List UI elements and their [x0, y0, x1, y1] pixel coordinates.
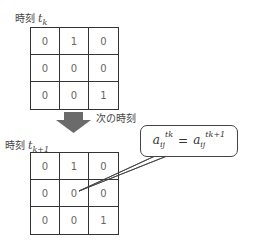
- rhs-term: aijtk+1: [193, 132, 225, 149]
- callout-tail-lines: [0, 0, 254, 247]
- equals-sign: =: [178, 134, 188, 148]
- lhs-term: aijtk: [153, 132, 173, 149]
- equation-callout: aijtk = aijtk+1: [140, 125, 238, 157]
